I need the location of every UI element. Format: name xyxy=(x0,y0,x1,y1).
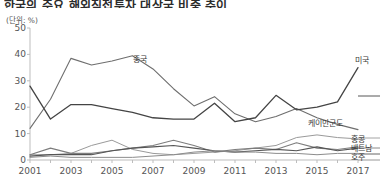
x-axis-tick-label: 2001 xyxy=(19,166,42,176)
y-axis-tick-label: 40 xyxy=(2,49,26,59)
plot-area xyxy=(30,28,358,160)
x-axis-tick-label: 2017 xyxy=(347,166,370,176)
x-axis-tick-label: 2013 xyxy=(265,166,288,176)
series-label-cayman: 케이만군도 xyxy=(308,120,343,128)
x-axis-tick-label: 2009 xyxy=(183,166,206,176)
chart-svg xyxy=(30,28,358,160)
x-axis-tick-label: 2015 xyxy=(306,166,329,176)
series-line-australia xyxy=(30,151,358,158)
series-label-hongkong: 홍콩 xyxy=(351,136,365,144)
x-axis-tick-label: 2005 xyxy=(101,166,124,176)
series-label-usa: 미국 xyxy=(355,57,369,65)
y-axis-tick-label: 50 xyxy=(2,23,26,33)
series-label-china: 중국 xyxy=(133,56,147,64)
x-axis-tick-label: 2007 xyxy=(142,166,165,176)
chart-title: 한국의 주요 해외직접투자 대상국 비중 추이 xyxy=(4,0,228,8)
y-axis-labels: 01020304050 xyxy=(0,28,26,160)
series-label-vietnam: 베트남 xyxy=(351,145,372,153)
x-axis-tick-label: 2003 xyxy=(60,166,83,176)
y-axis-tick-label: 10 xyxy=(2,129,26,139)
x-axis-tick-label: 2011 xyxy=(224,166,247,176)
x-axis-labels: 200120032005200720092011201320152017 xyxy=(0,166,385,182)
y-axis-tick-label: 30 xyxy=(2,76,26,86)
y-axis-tick-label: 20 xyxy=(2,102,26,112)
series-label-australia: 호주 xyxy=(351,154,365,162)
y-axis-tick-label: 0 xyxy=(2,155,26,165)
chart-container: 한국의 주요 해외직접투자 대상국 비중 추이 (단위: %) 01020304… xyxy=(0,0,385,192)
